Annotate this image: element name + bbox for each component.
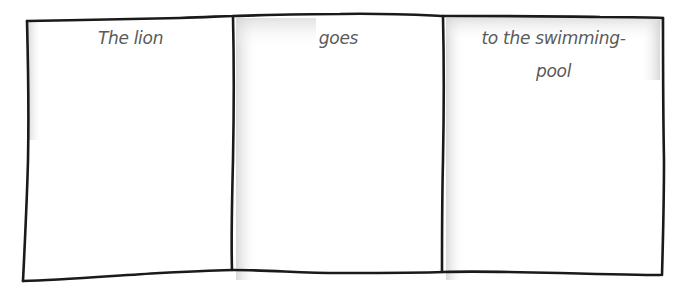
frame-right-edge [662, 18, 664, 275]
panel-place-text-line1: to the swimming- [444, 27, 663, 49]
pencil-shading [28, 18, 662, 280]
panel-verb-text: goes [234, 27, 443, 49]
panel-subject-text: The lion [28, 27, 233, 49]
panel-divider-1 [232, 16, 234, 270]
frame-bottom-edge [23, 270, 660, 281]
panel-place-text-line2: pool [444, 60, 663, 82]
panel-divider-2 [442, 16, 444, 272]
frame-left-edge [23, 21, 28, 281]
